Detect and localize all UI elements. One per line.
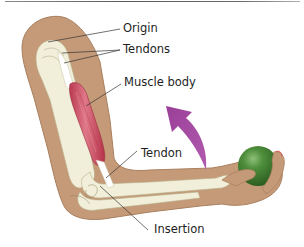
flexion-arrow-icon <box>166 106 206 170</box>
label-tendons: Tendons <box>123 44 170 56</box>
label-origin: Origin <box>123 23 158 35</box>
label-tendon: Tendon <box>141 148 182 160</box>
label-muscle-body: Muscle body <box>124 77 196 89</box>
label-insertion: Insertion <box>154 224 205 236</box>
arm-anatomy-diagram <box>0 0 304 247</box>
